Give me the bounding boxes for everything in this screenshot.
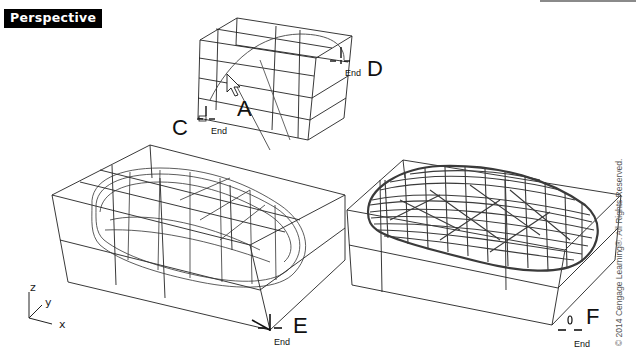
callout-A: A [237,98,252,120]
cursor-arrow-icon [227,74,240,96]
perspective-viewport[interactable]: Perspective [0,0,636,351]
snap-label-D: End [345,68,361,78]
snap-label-C: End [211,126,227,136]
callout-E: E [293,315,308,337]
snap-marker-F [558,316,582,330]
callout-F: F [586,306,599,328]
wireframe-scene [0,0,636,351]
mouse-wireframe-right [368,166,598,271]
callout-D: D [367,58,383,80]
axis-label-z: z [30,282,36,293]
copyright-notice: © 2014 Cengage Learning®. All Rights Res… [614,159,624,346]
snap-marker-C [197,106,215,121]
callout-C: C [172,117,188,139]
axis-label-x: x [59,319,66,330]
left-bounding-box [52,145,345,330]
mouse-wireframe-left [92,168,306,287]
axis-label-y: y [45,297,52,308]
snap-marker-D [330,47,350,64]
snap-label-F: End [574,339,590,349]
snap-label-E: End [274,337,290,347]
